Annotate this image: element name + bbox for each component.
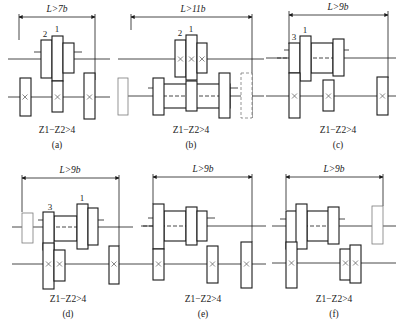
gear-1	[52, 36, 63, 81]
fixed-gear-left	[20, 78, 31, 116]
fixed-gear-middle	[52, 81, 63, 112]
gear-2	[41, 40, 52, 78]
gear-small	[197, 43, 207, 73]
block-gear-middle	[186, 81, 197, 111]
dimension-label: L>11b	[179, 4, 205, 14]
panel-label: (b)	[185, 140, 196, 151]
block-gear-left	[153, 78, 164, 115]
fixed-gear-left	[286, 242, 297, 288]
condition-label: Z1−Z2>4	[185, 294, 222, 304]
panel-f: L>9b Z1−Z2>4 (f)	[272, 164, 396, 320]
block-gear-right	[88, 208, 98, 245]
panel-c: L>9b 3 1 Z1−Z2>4 (c)	[266, 2, 396, 151]
gear-1	[77, 204, 88, 249]
fixed-gear-left	[43, 243, 54, 289]
condition-label: Z1−Z2>4	[39, 125, 76, 135]
gear-number-2: 2	[43, 29, 48, 39]
gear-number-1: 1	[189, 24, 194, 34]
fixed-gear-middle	[323, 80, 334, 111]
condition-label: Z1−Z2>4	[320, 125, 357, 135]
condition-label: Z1−Z2>4	[316, 294, 353, 304]
outside-gear	[22, 213, 33, 243]
gear-small	[63, 43, 74, 73]
gear-arrangement-figure: L>7b 2 1 Z1−Z2>4 (a) L>11b	[0, 0, 399, 328]
block-gear-middle	[186, 207, 197, 245]
block-gear-left	[153, 204, 164, 249]
gear-number-2: 2	[178, 28, 183, 38]
fixed-gear-second	[54, 250, 65, 281]
gear-1	[300, 36, 311, 81]
block-gear-right	[328, 207, 339, 244]
sliding-sleeve	[54, 216, 77, 241]
panel-label: (e)	[198, 309, 209, 320]
panel-d: L>9b 3 1 Z1−Z2>4 (d)	[12, 165, 133, 320]
gear-number-1: 1	[55, 24, 60, 34]
fixed-gear-right	[241, 242, 252, 288]
fixed-gear-left	[153, 249, 164, 280]
panel-label: (c)	[333, 140, 344, 151]
gear-number-3: 3	[292, 32, 297, 42]
panel-label: (f)	[329, 309, 339, 320]
fixed-gear-right	[109, 246, 119, 284]
condition-label: Z1−Z2>4	[173, 125, 210, 135]
dimension-label: L>7b	[45, 4, 67, 14]
panel-e: L>9b Z1−Z2>4 (e)	[133, 164, 266, 320]
condition-label: Z1−Z2>4	[50, 294, 87, 304]
gear-number-1: 1	[80, 193, 85, 203]
panel-a: L>7b 2 1 Z1−Z2>4 (a)	[8, 4, 110, 151]
dimension-label: L>9b	[191, 164, 213, 174]
outside-gear	[118, 78, 128, 115]
gear-3	[289, 43, 300, 73]
dimension-label: L>9b	[326, 2, 348, 12]
fixed-gear-pair-left	[340, 249, 351, 280]
gear-1	[186, 35, 197, 80]
block-gear-right	[333, 39, 344, 76]
fixed-gear-right	[84, 73, 95, 119]
fixed-gear-left	[289, 73, 300, 118]
fixed-gear-middle	[207, 246, 218, 283]
block-gear-middle	[296, 204, 307, 249]
panel-label: (d)	[62, 309, 73, 320]
gear-number-1: 1	[303, 25, 308, 35]
gear-number-3: 3	[48, 202, 53, 212]
dimension-label: L>9b	[322, 164, 344, 174]
panel-label: (a)	[52, 140, 63, 151]
gear-2	[175, 40, 186, 77]
block-gear-right	[219, 73, 230, 118]
outside-gear	[372, 206, 383, 244]
alternate-gear-position	[241, 73, 252, 118]
panel-b: L>11b 2 1 Z1−Z2>4 (b)	[118, 4, 264, 151]
block-gear-right	[197, 211, 207, 241]
fixed-gear-pair-right	[350, 245, 361, 283]
dimension-label: L>9b	[58, 165, 80, 175]
